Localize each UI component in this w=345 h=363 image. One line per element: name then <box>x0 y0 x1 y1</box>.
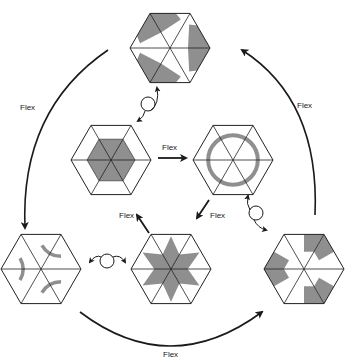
face-middle-left <box>71 125 151 194</box>
face-bottom-left <box>1 234 81 303</box>
turn-over-icon-bottom-left <box>90 254 125 268</box>
flex-arc-bottom-right-to-top <box>242 50 315 215</box>
hexaflexagon-diagram: Flex Flex Flex Flex Flex Flex <box>0 0 345 363</box>
face-bottom-center <box>131 234 211 303</box>
flex-label-left-arc: Flex <box>20 103 35 112</box>
face-middle-right <box>193 125 273 194</box>
turn-over-icon-right <box>247 196 266 230</box>
flex-label-inner-right: Flex <box>210 211 225 220</box>
face-bottom-right <box>264 234 344 303</box>
flex-label-right-arc: Flex <box>297 101 312 110</box>
flex-label-inner-left: Flex <box>119 211 134 220</box>
flex-label-inner-top: Flex <box>162 143 177 152</box>
flex-arrow-bottom-center-to-middle-left <box>137 215 149 233</box>
flex-arrow-middle-right-to-bottom-center <box>197 200 209 218</box>
flex-label-bottom-arc: Flex <box>163 350 178 359</box>
flex-arc-bottom-left-to-bottom-right <box>80 312 262 346</box>
turn-over-icon-top <box>138 88 158 121</box>
flex-arc-top-to-bottom-left <box>25 50 108 228</box>
face-top <box>130 13 210 82</box>
